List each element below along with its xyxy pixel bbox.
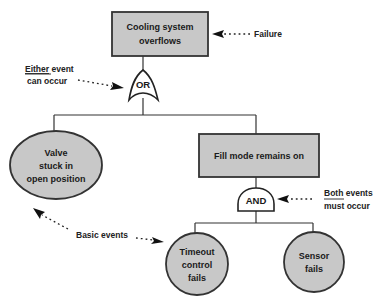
sensor-event-line-1: Sensor [299, 251, 330, 261]
top-event-line-1: Cooling system [126, 22, 193, 32]
valve-event: Valve stuck in open position [10, 131, 102, 199]
annotation-basic: Basic events [33, 208, 164, 244]
annotation-either: Either event can occur [25, 64, 124, 90]
annotation-basic-text: Basic events [76, 230, 128, 240]
annotation-both-rest: events [343, 188, 373, 198]
arrow-left-icon [277, 195, 289, 203]
fault-tree-diagram: Cooling system overflows OR Valve stuck … [0, 0, 381, 307]
annotation-both-underlined: Both [324, 188, 343, 198]
top-event-box: Cooling system overflows [112, 12, 208, 56]
valve-event-line-1: Valve [44, 148, 67, 158]
timeout-event: Timeout control fails [166, 233, 228, 295]
fill-event-label: Fill mode remains on [214, 151, 304, 161]
or-gate-label: OR [136, 79, 150, 90]
valve-event-line-3: open position [27, 174, 86, 184]
annotation-either-rest: event [49, 64, 74, 74]
top-event-line-2: overflows [139, 36, 181, 46]
timeout-event-line-2: control [182, 260, 213, 270]
sensor-event: Sensor fails [284, 232, 344, 292]
arrow-up-left-icon [33, 208, 45, 219]
arrow-right-icon [151, 237, 164, 244]
or-gate: OR [129, 70, 158, 100]
annotation-both: Both events must occur [277, 188, 373, 211]
annotation-either-line-1: Either event [25, 64, 74, 74]
valve-event-line-2: stuck in [39, 161, 73, 171]
annotation-both-line-2: must occur [324, 201, 371, 211]
annotation-either-line-2: can occur [27, 76, 68, 86]
timeout-event-line-1: Timeout [180, 247, 215, 257]
and-gate: AND [238, 188, 274, 211]
arrow-right-icon [110, 82, 124, 90]
annotation-either-underlined: Either [25, 64, 50, 74]
fill-event-box: Fill mode remains on [199, 134, 319, 177]
sensor-event-line-2: fails [305, 264, 323, 274]
annotation-both-line-1: Both events [324, 188, 373, 198]
timeout-event-line-3: fails [188, 273, 206, 283]
annotation-failure: Failure [212, 29, 282, 39]
arrow-left-icon [212, 30, 224, 38]
and-gate-label: AND [246, 195, 267, 206]
annotation-failure-text: Failure [254, 29, 282, 39]
